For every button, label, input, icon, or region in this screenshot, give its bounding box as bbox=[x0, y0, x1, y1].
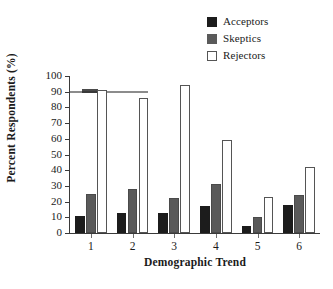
plot-area: 0102030405060708090100 123456 bbox=[70, 76, 320, 233]
x-tick bbox=[133, 234, 134, 238]
scan-smudge-artifact-dark bbox=[82, 89, 98, 93]
bar-rejectors-5 bbox=[264, 197, 274, 233]
y-tick: 70 bbox=[65, 123, 70, 124]
bar-acceptors-5 bbox=[242, 226, 252, 233]
y-axis-title: Percent Respondents (%) bbox=[0, 0, 22, 235]
legend-swatch-acceptors-icon bbox=[207, 17, 217, 27]
x-tick bbox=[91, 234, 92, 238]
bar-acceptors-2 bbox=[117, 213, 127, 233]
y-tick: 50 bbox=[65, 155, 70, 156]
legend-item-acceptors: Acceptors bbox=[207, 14, 327, 29]
bar-acceptors-1 bbox=[75, 216, 85, 233]
x-tick-label: 6 bbox=[289, 240, 309, 253]
y-tick: 30 bbox=[65, 186, 70, 187]
legend-swatch-skeptics-icon bbox=[207, 34, 217, 44]
y-tick: 60 bbox=[65, 139, 70, 140]
legend-item-skeptics: Skeptics bbox=[207, 31, 327, 46]
y-axis-title-text: Percent Respondents (%) bbox=[5, 53, 17, 183]
bar-rejectors-4 bbox=[222, 140, 232, 233]
y-tick-label: 10 bbox=[36, 210, 62, 222]
legend-item-rejectors: Rejectors bbox=[207, 48, 327, 63]
legend-label-acceptors: Acceptors bbox=[223, 16, 269, 27]
y-tick: 80 bbox=[65, 107, 70, 108]
bar-skeptics-5 bbox=[253, 217, 263, 233]
y-tick-label: 60 bbox=[36, 132, 62, 144]
x-tick bbox=[258, 234, 259, 238]
bar-skeptics-2 bbox=[128, 189, 138, 233]
x-tick-label: 2 bbox=[123, 240, 143, 253]
y-tick-label: 0 bbox=[36, 226, 62, 238]
y-tick: 20 bbox=[65, 202, 70, 203]
y-tick: 0 bbox=[65, 233, 70, 234]
legend-label-skeptics: Skeptics bbox=[223, 33, 261, 44]
y-tick: 40 bbox=[65, 170, 70, 171]
bar-rejectors-2 bbox=[139, 98, 149, 233]
y-tick-label: 80 bbox=[36, 100, 62, 112]
bar-rejectors-3 bbox=[180, 85, 190, 233]
bar-rejectors-6 bbox=[305, 167, 315, 233]
x-tick-label: 4 bbox=[206, 240, 226, 253]
y-tick-label: 40 bbox=[36, 163, 62, 175]
bar-acceptors-3 bbox=[158, 213, 168, 233]
x-tick-label: 3 bbox=[164, 240, 184, 253]
x-tick-label: 1 bbox=[81, 240, 101, 253]
bar-acceptors-6 bbox=[283, 205, 293, 233]
bar-rejectors-1 bbox=[97, 90, 107, 233]
chart-legend: Acceptors Skeptics Rejectors bbox=[207, 14, 327, 65]
chart-figure: Acceptors Skeptics Rejectors Percent Res… bbox=[0, 0, 333, 289]
x-tick bbox=[174, 234, 175, 238]
x-tick bbox=[216, 234, 217, 238]
y-tick-label: 50 bbox=[36, 148, 62, 160]
x-tick-label: 5 bbox=[248, 240, 268, 253]
y-tick-label: 90 bbox=[36, 85, 62, 97]
bar-skeptics-4 bbox=[211, 184, 221, 233]
y-tick-label: 70 bbox=[36, 116, 62, 128]
x-axis-line bbox=[69, 233, 320, 234]
y-tick-label: 20 bbox=[36, 195, 62, 207]
bar-skeptics-6 bbox=[294, 195, 304, 233]
legend-label-rejectors: Rejectors bbox=[223, 50, 265, 61]
y-tick-label: 100 bbox=[36, 69, 62, 81]
y-tick: 100 bbox=[65, 76, 70, 77]
bar-skeptics-1 bbox=[86, 194, 96, 233]
legend-swatch-rejectors-icon bbox=[207, 51, 217, 61]
x-tick bbox=[299, 234, 300, 238]
y-tick-label: 30 bbox=[36, 179, 62, 191]
y-tick: 10 bbox=[65, 217, 70, 218]
x-axis-title: Demographic Trend bbox=[70, 256, 320, 268]
bar-acceptors-4 bbox=[200, 206, 210, 233]
bar-skeptics-3 bbox=[169, 198, 179, 233]
